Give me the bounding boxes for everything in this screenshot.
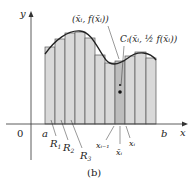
x-bar-i-label: x̄ᵢ [116, 148, 123, 157]
leader-xi-1 [106, 126, 114, 140]
centroid-point [118, 90, 122, 94]
interval-right-label: b [161, 128, 167, 139]
x-i-minus-1-label: xᵢ₋₁ [96, 141, 110, 150]
x-axis-arrow-icon [182, 122, 188, 127]
figure-caption: (b) [87, 167, 101, 178]
r1-label: R1 [49, 138, 61, 150]
x-axis-label: x [180, 127, 186, 138]
origin-label: 0 [17, 128, 23, 139]
r3-label: R3 [79, 150, 92, 162]
centroid-label: Cᵢ(x̄ᵢ, ½ f(x̄ᵢ)) [120, 34, 178, 44]
leader-xi [126, 126, 130, 138]
diagram-canvas: y x 0 a b R1 R2 R3 xᵢ₋₁ x̄ᵢ xᵢ (x̄ᵢ, f(x… [0, 0, 193, 180]
r2-label: R2 [62, 142, 75, 154]
riemann-sum-diagram: y x 0 a b R1 R2 R3 xᵢ₋₁ x̄ᵢ xᵢ (x̄ᵢ, f(x… [0, 0, 193, 180]
interval-left-label: a [42, 128, 48, 139]
rectangles [45, 32, 156, 124]
top-point-label: (x̄ᵢ, f(x̄ᵢ)) [72, 14, 109, 24]
x-i-label: xᵢ [129, 139, 136, 148]
y-axis-label: y [19, 8, 26, 19]
top-point [119, 84, 121, 86]
y-axis-arrow-icon [29, 11, 34, 17]
leader-top-point [108, 26, 119, 59]
